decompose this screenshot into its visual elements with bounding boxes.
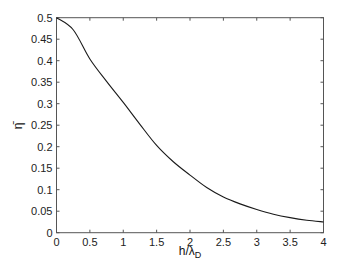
- y-tick-label: 0.45: [31, 33, 52, 45]
- x-tick-label: 1: [120, 236, 126, 248]
- y-tick-label: 0.15: [31, 162, 52, 174]
- y-axis-label: η̄: [11, 121, 25, 130]
- plot-border: [57, 18, 324, 233]
- x-axis-label-subscript: D: [195, 250, 202, 260]
- y-tick-label: 0.4: [37, 55, 52, 67]
- y-tick-label: 0.3: [37, 98, 52, 110]
- y-tick-label: 0.05: [31, 205, 52, 217]
- x-tick-label: 1.5: [149, 236, 164, 248]
- line-chart: 00.511.522.533.54 00.050.10.150.20.250.3…: [0, 0, 341, 278]
- x-tick-label: 3.5: [282, 236, 297, 248]
- y-axis-ticks: 00.050.10.150.20.250.30.350.40.450.5: [31, 12, 323, 239]
- plot-frame: [57, 18, 324, 233]
- y-tick-label: 0: [46, 227, 52, 239]
- x-tick-label: 2.5: [216, 236, 231, 248]
- y-tick-label: 0.2: [37, 141, 52, 153]
- y-tick-label: 0.1: [37, 184, 52, 196]
- x-tick-label: 4: [320, 236, 326, 248]
- x-axis-label-main: h/λ: [179, 244, 195, 258]
- y-tick-label: 0.5: [37, 12, 52, 24]
- data-series: [57, 18, 324, 222]
- y-tick-label: 0.25: [31, 119, 52, 131]
- y-tick-label: 0.35: [31, 76, 52, 88]
- x-axis-label: h/λD: [179, 244, 202, 260]
- x-tick-label: 3: [254, 236, 260, 248]
- x-tick-label: 0.5: [82, 236, 97, 248]
- y-axis-label-text: η̄: [11, 121, 25, 130]
- series-line: [57, 18, 324, 222]
- x-tick-label: 0: [53, 236, 59, 248]
- x-axis-ticks: 00.511.522.533.54: [53, 18, 326, 248]
